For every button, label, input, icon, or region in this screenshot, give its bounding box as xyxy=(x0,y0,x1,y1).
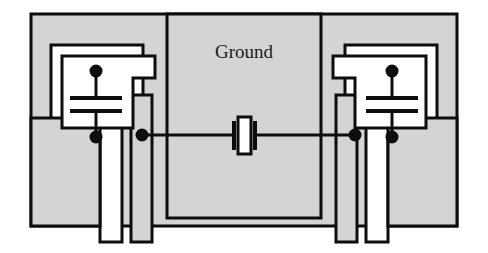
crystal-body xyxy=(238,117,251,154)
crystal-resonator xyxy=(234,117,255,154)
left-capacitor-top-node xyxy=(90,65,103,78)
left-ground-island-shape xyxy=(31,118,100,226)
right-capacitor-top-node xyxy=(386,65,399,78)
left-signal-rail-node xyxy=(136,129,149,142)
circuit-diagram: Ground xyxy=(0,0,488,253)
right-capacitor-bottom-node xyxy=(386,131,399,144)
ground-label: Ground xyxy=(215,41,274,62)
left-capacitor-bottom-node xyxy=(90,131,103,144)
left-ground-island xyxy=(31,118,100,226)
circuit-svg: Ground xyxy=(0,0,488,253)
right-signal-rail-node xyxy=(349,129,362,142)
right-ground-island xyxy=(388,118,457,226)
right-ground-island-shape xyxy=(388,118,457,226)
